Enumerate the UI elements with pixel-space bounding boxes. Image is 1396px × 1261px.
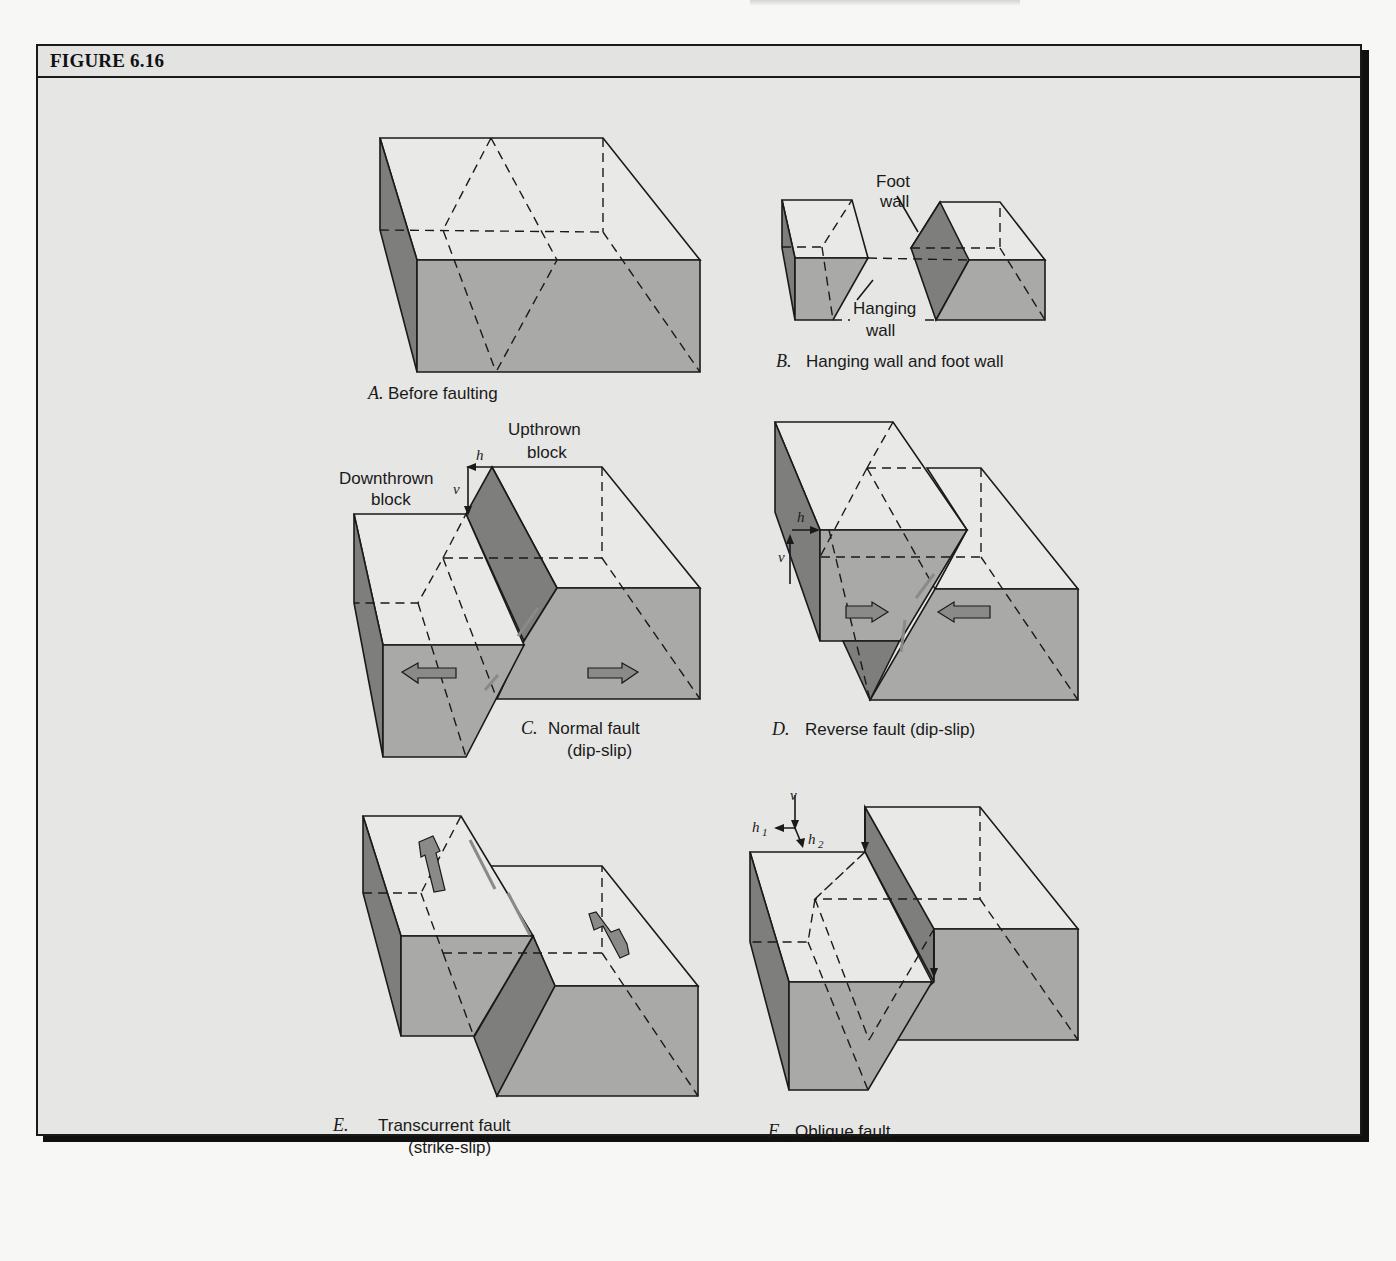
panel-c-caption-1: Normal fault xyxy=(548,719,640,738)
panel-a-caption: Before faulting xyxy=(388,384,498,403)
panel-c-normal-fault: h v Upthrown block Downthrown block C. N… xyxy=(339,420,700,760)
panel-b-caption: Hanging wall and foot wall xyxy=(806,352,1004,371)
downthrown-label-1: Downthrown xyxy=(339,469,434,488)
f-h2-label: h xyxy=(808,831,816,847)
upthrown-label-1: Upthrown xyxy=(508,420,581,439)
foot-wall-label-1: Foot xyxy=(876,172,910,191)
panel-a-before-faulting: A. Before faulting xyxy=(367,138,700,403)
panel-f-letter: F. xyxy=(767,1121,781,1141)
panel-c-caption-2: (dip-slip) xyxy=(567,741,632,760)
c-h-label: h xyxy=(476,447,484,463)
panel-e-caption-1: Transcurrent fault xyxy=(378,1116,511,1135)
f-h2-sub: 2 xyxy=(818,838,824,850)
panel-d-letter: D. xyxy=(771,719,790,739)
f-h1-sub: 1 xyxy=(762,826,768,838)
c-v-label: v xyxy=(453,481,460,497)
hanging-wall-label-2: wall xyxy=(865,321,895,340)
panel-a-letter: A. xyxy=(367,383,384,403)
d-v-label: v xyxy=(778,549,785,565)
panel-b-letter: B. xyxy=(776,351,792,371)
foot-wall-label-2: wall xyxy=(879,192,909,211)
panel-d-caption: Reverse fault (dip-slip) xyxy=(805,720,975,739)
upthrown-label-2: block xyxy=(527,443,567,462)
panel-b-hanging-foot-wall: Foot wall Hanging wall B. Hanging wall a… xyxy=(776,172,1045,371)
panel-e-caption-2: (strike-slip) xyxy=(408,1138,491,1157)
hanging-wall-label-1: Hanging xyxy=(853,299,916,318)
d-h-label: h xyxy=(797,509,805,525)
downthrown-label-2: block xyxy=(371,490,411,509)
f-v-label: v xyxy=(790,787,797,803)
panel-f-caption: Oblique fault xyxy=(795,1122,891,1141)
panel-c-letter: C. xyxy=(521,718,538,738)
panel-f-oblique-fault: v h 1 h 2 F. Oblique fault xyxy=(750,787,1078,1141)
panel-e-transcurrent-fault: E. Transcurrent fault (strike-slip) xyxy=(332,816,698,1157)
h2-arrow-icon xyxy=(796,838,805,848)
fault-diagrams: A. Before faulting Foot wall Hanging wal… xyxy=(0,0,1396,1261)
panel-e-letter: E. xyxy=(332,1115,349,1135)
panel-d-reverse-fault: h v D. Reverse fault (dip-slip) xyxy=(771,422,1078,739)
f-h1-label: h xyxy=(752,819,760,835)
h1-arrow-icon xyxy=(774,824,784,832)
